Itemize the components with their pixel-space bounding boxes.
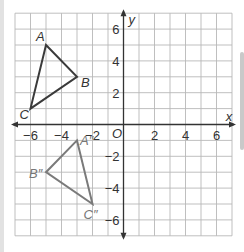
- x-tick-label: 2: [151, 128, 158, 143]
- x-tick-label: 6: [213, 128, 220, 143]
- y-tick-label: 4: [112, 54, 119, 69]
- vertex-label: A: [35, 29, 45, 44]
- coordinate-plane: x y O −6−4−2246642−2−4−6 ABCA″B″C″: [0, 0, 244, 252]
- triangles: ABCA″B″C″: [20, 29, 98, 222]
- vertex-label: A″: [79, 133, 94, 148]
- x-tick-label: −6: [23, 128, 38, 143]
- vertex-label: B: [81, 75, 90, 90]
- y-axis-label: y: [128, 12, 137, 27]
- y-tick-label: 6: [112, 22, 119, 37]
- vertex-label: C: [20, 107, 30, 122]
- x-axis-label: x: [225, 109, 233, 124]
- vertex-label: B″: [29, 166, 43, 181]
- x-axis-arrow-left-icon: [11, 122, 18, 128]
- vertex-label: C″: [84, 207, 98, 222]
- y-tick-label: −4: [105, 181, 120, 196]
- y-tick-label: 2: [112, 86, 119, 101]
- axes: x y O: [11, 9, 236, 240]
- x-tick-label: 4: [182, 128, 189, 143]
- y-axis-arrow-down-icon: [121, 233, 127, 240]
- y-tick-label: −2: [105, 149, 120, 164]
- y-axis-arrow-up-icon: [121, 9, 127, 16]
- x-tick-label: −4: [54, 128, 69, 143]
- origin-label: O: [112, 126, 122, 141]
- y-tick-label: −6: [105, 213, 120, 228]
